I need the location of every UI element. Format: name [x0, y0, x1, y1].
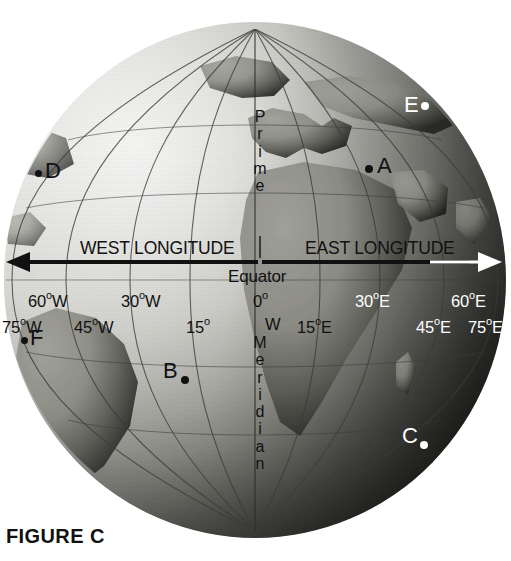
tick-30w-suffix: W — [145, 292, 160, 310]
tick-60w-suffix: W — [52, 292, 67, 310]
tick-45w: 45oW — [74, 316, 113, 336]
prime-meridian-word-meridian: M e r i d i a n — [250, 334, 270, 472]
tick-30e-suffix: E — [379, 292, 390, 310]
tick-30w-value: 30 — [121, 292, 139, 310]
meridian-letter-5: i — [250, 420, 270, 437]
prime-letter-3: m — [250, 160, 270, 177]
point-b-dot — [181, 376, 189, 384]
prime-meridian-word-prime: P r i m e — [250, 108, 270, 194]
tick-75w-value: 75 — [2, 318, 20, 336]
point-e-dot — [421, 102, 429, 110]
meridian-letter-3: i — [250, 386, 270, 403]
prime-letter-4: e — [250, 177, 270, 194]
tick-75e: 75oE — [468, 316, 503, 336]
tick-75e-value: 75 — [468, 318, 486, 336]
meridian-letter-6: a — [250, 438, 270, 455]
tick-45w-suffix: W — [98, 318, 113, 336]
tick-75e-suffix: E — [492, 318, 503, 336]
tick-15e-suffix: E — [321, 318, 332, 336]
point-f-label: F — [30, 327, 43, 349]
west-longitude-label: WEST LONGITUDE — [80, 240, 234, 258]
tick-15e-value: 15 — [297, 318, 315, 336]
tick-0-degree: o — [262, 289, 268, 301]
tick-15w-suffix-letter: W — [265, 316, 280, 333]
figure-caption: FIGURE C — [6, 525, 105, 548]
tick-60e-suffix: E — [475, 292, 486, 310]
tick-30e: 30oE — [355, 290, 390, 310]
meridian-letter-4: d — [250, 403, 270, 420]
tick-45w-value: 45 — [74, 318, 92, 336]
tick-60e: 60oE — [451, 290, 486, 310]
prime-letter-0: P — [250, 108, 270, 125]
equator-label: Equator — [228, 268, 286, 285]
tick-45e-value: 45 — [416, 318, 434, 336]
figure-container: WEST LONGITUDE EAST LONGITUDE Equator P … — [0, 0, 511, 561]
point-e-label: E — [404, 94, 418, 116]
point-a-dot — [365, 165, 373, 173]
tick-60e-value: 60 — [451, 292, 469, 310]
tick-0-value: 0 — [253, 292, 262, 310]
tick-15e: 15oE — [297, 316, 332, 336]
point-a-label: A — [377, 155, 391, 177]
point-f-dot — [21, 337, 28, 344]
point-c-dot — [420, 441, 428, 449]
meridian-letter-2: r — [250, 369, 270, 386]
tick-45e-suffix: E — [440, 318, 451, 336]
point-d-label: D — [45, 160, 61, 182]
tick-15w-value: 15 — [186, 318, 204, 336]
point-d-dot — [35, 170, 42, 177]
prime-letter-2: i — [250, 143, 270, 160]
tick-0: 0o — [253, 290, 268, 310]
east-longitude-label: EAST LONGITUDE — [305, 240, 455, 258]
point-c-label: C — [402, 425, 418, 447]
tick-15w: 15o — [186, 316, 210, 336]
tick-60w: 60oW — [28, 290, 67, 310]
tick-60w-value: 60 — [28, 292, 46, 310]
tick-30w: 30oW — [121, 290, 160, 310]
prime-letter-1: r — [250, 125, 270, 142]
tick-15w-degree: o — [204, 315, 210, 327]
meridian-letter-7: n — [250, 455, 270, 472]
tick-30e-value: 30 — [355, 292, 373, 310]
meridian-letter-1: e — [250, 351, 270, 368]
meridian-letter-0: M — [250, 334, 270, 351]
point-b-label: B — [163, 360, 177, 382]
tick-45e: 45oE — [416, 316, 451, 336]
